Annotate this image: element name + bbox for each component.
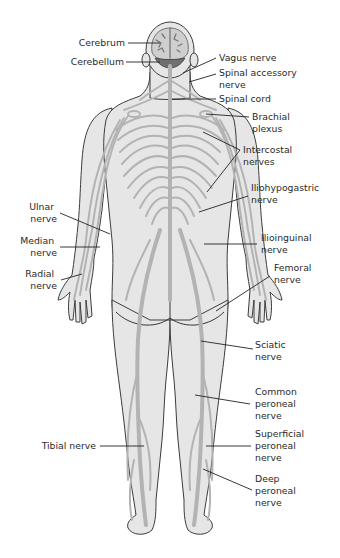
label-tibial-nerve: Tibial nerve: [41, 440, 97, 451]
label-median-nerve: Median nerve: [20, 235, 57, 258]
label-vagus-nerve: Vagus nerve: [219, 52, 277, 63]
label-radial-nerve: Radial nerve: [25, 268, 57, 291]
label-iliohypogastric-nerve: Iliohypogastric nerve: [251, 182, 322, 205]
label-ilioinguinal-nerve: Ilioinguinal nerve: [261, 232, 315, 255]
label-sciatic-nerve: Sciatic nerve: [255, 339, 289, 362]
label-common-peroneal-nerve: Common peroneal nerve: [255, 386, 300, 421]
label-spinal-accessory-nerve: Spinal accessory nerve: [219, 67, 300, 90]
label-brachial-plexus: Brachial plexus: [252, 111, 293, 134]
label-cerebellum: Cerebellum: [71, 56, 124, 67]
nervous-system-diagram: Cerebrum Cerebellum Vagus nerve Spinal a…: [0, 0, 340, 558]
label-cerebrum: Cerebrum: [79, 37, 125, 48]
right-leg: [170, 300, 228, 534]
ear-left: [142, 53, 150, 67]
leader-spinal-accessory: [189, 74, 216, 82]
label-ulnar-nerve: Ulnar nerve: [29, 201, 57, 224]
label-femoral-nerve: Femoral nerve: [274, 262, 314, 285]
label-superficial-peroneal-nerve: Superficial peroneal nerve: [255, 428, 307, 463]
ear-right: [190, 53, 198, 67]
left-leg: [112, 300, 170, 534]
label-intercostal-nerves: Intercostal nerves: [243, 144, 295, 167]
label-deep-peroneal-nerve: Deep peroneal nerve: [255, 473, 299, 508]
label-spinal-cord: Spinal cord: [219, 93, 271, 104]
